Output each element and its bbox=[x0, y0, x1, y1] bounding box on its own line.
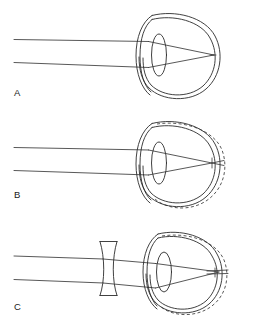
panel-b-refracted-rays bbox=[149, 150, 225, 175]
diverging-upper-ray bbox=[207, 270, 228, 271]
anterior-chamber-outline bbox=[140, 20, 152, 93]
upper-ray bbox=[14, 148, 149, 151]
anterior-chamber-outline bbox=[140, 128, 152, 201]
upper-ray bbox=[14, 256, 103, 259]
lower-ray bbox=[14, 280, 103, 284]
diverging-lower-ray bbox=[212, 163, 224, 166]
eye-diagram-svg: A B bbox=[0, 0, 253, 334]
panel-b: B bbox=[14, 121, 225, 208]
diverging-lower-ray bbox=[207, 274, 228, 275]
upper-ray bbox=[14, 40, 149, 42]
refracted-upper-ray bbox=[149, 42, 215, 56]
concave-lens-right-face bbox=[113, 242, 117, 296]
panel-a-refracted-rays bbox=[149, 42, 215, 68]
crystalline-lens bbox=[152, 142, 167, 184]
crystalline-lens bbox=[152, 34, 167, 76]
refracted-upper-ray bbox=[149, 150, 213, 163]
diverging-upper-ray bbox=[212, 161, 224, 164]
panel-label-c: C bbox=[14, 301, 21, 312]
concave-lens bbox=[100, 242, 117, 296]
panel-a-incoming-rays bbox=[14, 40, 149, 68]
panel-a: A bbox=[14, 13, 220, 98]
refracted-lower-ray bbox=[149, 55, 215, 68]
lower-ray bbox=[14, 63, 149, 68]
elongated-eyeball-dashed-outline bbox=[155, 123, 225, 208]
panel-label-b: B bbox=[14, 189, 21, 200]
refracted-lower-ray bbox=[149, 163, 213, 175]
retina-outline bbox=[143, 18, 215, 95]
refracted-lower-ray bbox=[156, 272, 220, 288]
figure-root: A B bbox=[0, 0, 253, 334]
panel-b-incoming-rays bbox=[14, 148, 149, 176]
concave-lens-left-face bbox=[100, 242, 104, 296]
lower-ray bbox=[14, 171, 149, 176]
panel-c: C bbox=[14, 232, 228, 314]
panel-label-a: A bbox=[14, 87, 21, 98]
panel-c-incoming-rays bbox=[14, 256, 103, 283]
retina-outline bbox=[150, 236, 217, 309]
